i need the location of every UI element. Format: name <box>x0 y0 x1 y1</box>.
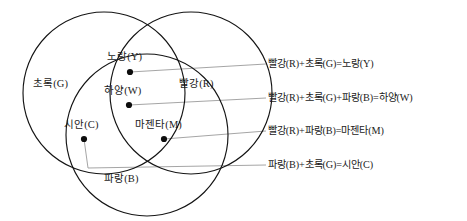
label-circle-green: 초록(G) <box>33 79 68 90</box>
dot-cyan <box>81 136 87 142</box>
dot-magenta <box>161 136 167 142</box>
leader-line-yellow <box>130 64 266 72</box>
equation-white: 빨강(R)+초록(G)+파랑(B)=하양(W) <box>268 93 413 103</box>
venn-diagram-figure: 초록(G) 빨강(R) 파랑(B) 노랑(Y) 하양(W) 시안(C) 마젠타(… <box>0 0 467 221</box>
leader-line-cyan <box>84 139 266 168</box>
label-region-yellow: 노랑(Y) <box>107 52 142 63</box>
venn-diagram-canvas <box>0 0 467 221</box>
dot-yellow <box>127 69 133 75</box>
label-circle-blue: 파랑(B) <box>104 174 139 185</box>
leader-line-white <box>129 98 266 105</box>
label-region-white: 하양(W) <box>104 86 141 97</box>
leader-line-magenta <box>164 131 266 139</box>
label-region-magenta: 마젠타(M) <box>135 120 182 131</box>
label-region-cyan: 시안(C) <box>64 120 99 131</box>
equation-cyan: 파랑(B)+초록(G)=시안(C) <box>268 160 373 170</box>
dot-white <box>126 102 132 108</box>
equation-magenta: 빨강(R)+파랑(B)=마젠타(M) <box>268 126 384 136</box>
label-circle-red: 빨강(R) <box>179 79 214 90</box>
equation-yellow: 빨강(R)+초록(G)=노랑(Y) <box>268 59 374 69</box>
